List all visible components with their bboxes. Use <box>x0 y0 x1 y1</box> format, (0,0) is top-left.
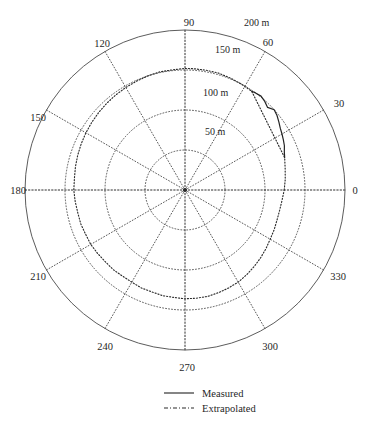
angular-tick-label-300: 300 <box>262 341 278 352</box>
chart-legend: Measured Extrapolated <box>164 388 256 414</box>
radial-tick-label-50m: 50 m <box>205 126 226 137</box>
angular-tick-label-90: 90 <box>184 17 195 28</box>
angular-tick-label-240: 240 <box>97 341 113 352</box>
radial-tick-label-150m: 150 m <box>215 44 241 55</box>
angular-tick-label-150: 150 <box>30 112 46 123</box>
radial-tick-label-100m: 100 m <box>203 87 229 98</box>
angular-tick-label-120: 120 <box>94 38 110 49</box>
angular-gridline-240deg <box>105 190 185 329</box>
angular-gridline-120deg <box>105 51 185 190</box>
polar-plot: 0306090120150180210240270300330 50 m100 … <box>0 0 368 429</box>
angular-gridline-210deg <box>46 190 185 270</box>
polar-chart-figure: 0306090120150180210240270300330 50 m100 … <box>0 0 368 429</box>
angular-gridline-150deg <box>46 110 185 190</box>
angular-tick-label-180: 180 <box>10 185 26 196</box>
angular-tick-label-0: 0 <box>352 185 357 196</box>
data-series-extrapolated <box>74 68 285 298</box>
legend-label-extrapolated: Extrapolated <box>202 403 256 414</box>
angular-tick-label-60: 60 <box>263 37 274 48</box>
legend-label-measured: Measured <box>202 388 244 399</box>
angular-tick-label-210: 210 <box>30 271 46 282</box>
angular-tick-label-270: 270 <box>179 362 195 373</box>
radial-tick-label-200m: 200 m <box>244 17 270 28</box>
angular-tick-label-30: 30 <box>334 98 345 109</box>
polar-origin-marker <box>183 188 187 192</box>
angular-tick-label-330: 330 <box>330 271 346 282</box>
radial-tick-labels: 50 m100 m150 m200 m <box>203 17 270 137</box>
